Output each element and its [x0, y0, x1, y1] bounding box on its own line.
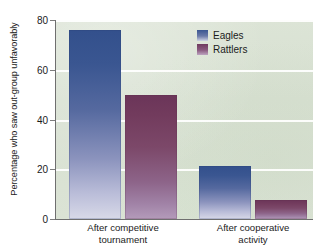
bar-rattlers-after-cooperative-activity [255, 200, 307, 219]
legend-label-rattlers: Rattlers [213, 45, 247, 55]
x-label-after-cooperative-activity: After cooperative activity [175, 222, 319, 245]
bar-chart-figure: Percentage who saw out-group unfavorably… [0, 0, 319, 252]
y-axis-title: Percentage who saw out-group unfavorably [9, 9, 19, 209]
x-axis-line [55, 219, 313, 220]
y-tick-label-80: 80 [26, 15, 48, 26]
bar-eagles-after-competitive-tournament [69, 30, 121, 219]
y-axis-tick-labels: 0 20 40 60 80 [20, 0, 48, 252]
bar-rattlers-after-competitive-tournament [125, 95, 177, 219]
gridline-80 [55, 20, 313, 22]
eagles-swatch-icon [197, 30, 208, 41]
legend-label-eagles: Eagles [213, 31, 244, 41]
plot-area [55, 20, 313, 219]
y-tick-label-60: 60 [26, 64, 48, 75]
legend-item-eagles: Eagles [197, 29, 247, 42]
rattlers-swatch-icon [197, 44, 208, 55]
x-label-line-1: After cooperative [175, 222, 319, 234]
x-axis-category-labels: After competitive tournament After coope… [55, 222, 313, 252]
bar-eagles-after-cooperative-activity [199, 166, 251, 220]
y-axis-line [55, 20, 56, 219]
legend-item-rattlers: Rattlers [197, 43, 247, 56]
y-tick-label-20: 20 [26, 164, 48, 175]
y-tick-label-40: 40 [26, 114, 48, 125]
chart-legend: Eagles Rattlers [197, 29, 247, 57]
x-label-line-2: activity [175, 234, 319, 246]
